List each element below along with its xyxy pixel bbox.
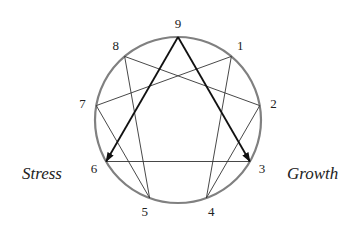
point-label-3: 3 [259, 161, 266, 176]
point-label-5: 5 [142, 204, 149, 219]
point-labels: 912345678 [79, 16, 277, 219]
point-label-9: 9 [175, 16, 182, 31]
stress-label: Stress [22, 164, 62, 183]
outer-circle [95, 37, 261, 203]
point-label-7: 7 [79, 96, 86, 111]
point-label-1: 1 [237, 38, 244, 53]
direction-arrows [106, 37, 250, 162]
point-label-8: 8 [112, 38, 119, 53]
enneagram-diagram: 912345678 Stress Growth [0, 0, 356, 238]
growth-label: Growth [287, 164, 338, 183]
arrow-9-to-3 [178, 37, 250, 162]
point-label-6: 6 [91, 161, 98, 176]
point-label-4: 4 [208, 204, 215, 219]
arrow-9-to-6 [106, 37, 178, 162]
hexad-lines [96, 56, 259, 198]
point-label-2: 2 [270, 96, 277, 111]
